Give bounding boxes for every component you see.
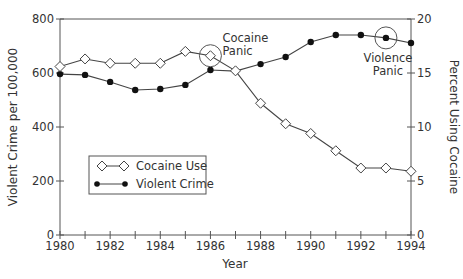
cocaine-use-point: [406, 166, 416, 176]
violent-crime-point: [157, 86, 163, 92]
chart: 19801982198419861988199019921994 0200400…: [0, 0, 463, 279]
x-tick-label: 1984: [146, 239, 175, 253]
violent-crime-point: [82, 72, 88, 78]
filled-circle-icon: [94, 181, 100, 187]
cocaine-use-point: [381, 163, 391, 173]
y-left-tick-label: 200: [32, 174, 54, 188]
cocaine-use-point: [80, 54, 90, 64]
x-tick-label: 1986: [196, 239, 225, 253]
y-left-tick-label: 800: [32, 12, 54, 26]
cocaine-use-point: [205, 51, 215, 61]
cocaine-use-point: [155, 58, 165, 68]
x-tick-label: 1990: [296, 239, 325, 253]
y-right-tick-label: 10: [417, 120, 432, 134]
x-tick-label: 1992: [346, 239, 375, 253]
violent-crime-point: [107, 79, 113, 85]
annotation-label: Panic: [222, 44, 252, 58]
cocaine-use-point: [130, 58, 140, 68]
cocaine-use-point: [105, 58, 115, 68]
y-left-tick-label: 600: [32, 66, 54, 80]
violent-crime-point: [132, 87, 138, 93]
y-left-tick-label: 0: [47, 228, 54, 242]
violent-crime-point: [308, 39, 314, 45]
y-left-tick-label: 400: [32, 120, 54, 134]
y-right-tick-label: 5: [417, 174, 424, 188]
y-right-tick-label: 0: [417, 228, 424, 242]
cocaine-use-point: [356, 163, 366, 173]
y-right-tick-label: 20: [417, 12, 432, 26]
x-tick-label: 1988: [246, 239, 275, 253]
x-axis: 19801982198419861988199019921994: [45, 231, 425, 253]
annotation-label: Violence: [364, 51, 413, 65]
y-right-tick-label: 15: [417, 66, 432, 80]
violent-crime-point: [333, 32, 339, 38]
annotation-label: Panic: [373, 64, 403, 78]
violent-crime-point: [257, 61, 263, 67]
y-axis-left: 0200400600800: [32, 12, 64, 242]
annotation-label: Cocaine: [222, 31, 268, 45]
cocaine-use-point: [55, 62, 65, 72]
violent-crime-point: [358, 32, 364, 38]
cocaine-use-point: [231, 66, 241, 76]
violent-crime-point: [207, 67, 213, 73]
violent-crime-point: [383, 35, 389, 41]
cocaine-use-point: [306, 128, 316, 138]
violent-crime-point: [182, 82, 188, 88]
cocaine-use-point: [180, 46, 190, 56]
violent-crime-point: [282, 54, 288, 60]
filled-circle-icon: [122, 181, 128, 187]
x-axis-label: Year: [221, 257, 247, 271]
legend-label-cocaine-use: Cocaine Use: [136, 159, 207, 173]
y-axis-right-label: Percent Using Cocaine: [447, 60, 461, 194]
legend-label-violent-crime: Violent Crime: [136, 177, 214, 191]
violent-crime-point: [408, 40, 414, 46]
cocaine-use-point: [331, 146, 341, 156]
legend: Cocaine Use Violent Crime: [89, 156, 214, 194]
x-tick-label: 1982: [96, 239, 125, 253]
y-axis-left-label: Violent Crime per 100,000: [6, 48, 20, 206]
